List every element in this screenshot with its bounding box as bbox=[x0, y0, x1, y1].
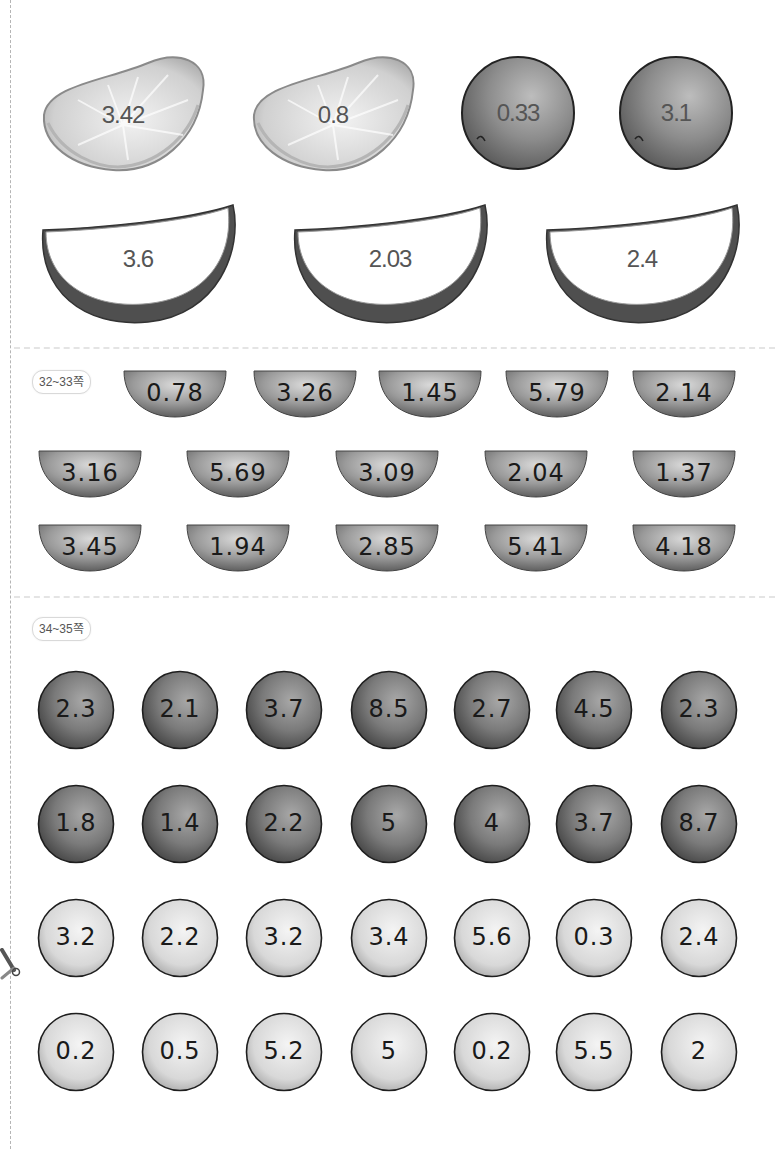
bowl-card[interactable]: 0.78 bbox=[123, 370, 227, 418]
dark-ball-card[interactable]: 4 bbox=[453, 784, 531, 864]
dark-ball-card[interactable]: 8.7 bbox=[660, 784, 738, 864]
watermelon-value: 3.6 bbox=[38, 245, 238, 273]
bowl-card[interactable]: 1.45 bbox=[378, 370, 482, 418]
tangerine-segment-card[interactable]: 3.42 bbox=[38, 45, 208, 175]
bowl-value: 0.78 bbox=[123, 379, 227, 407]
watermelon-value: 2.4 bbox=[542, 245, 742, 273]
bowl-value: 3.09 bbox=[335, 459, 439, 487]
dark-ball-card[interactable]: 2.7 bbox=[453, 670, 531, 750]
bowl-card[interactable]: 3.26 bbox=[253, 370, 357, 418]
light-ball-value: 5.6 bbox=[453, 923, 531, 951]
light-ball-card[interactable]: 2 bbox=[660, 1012, 738, 1092]
dark-ball-value: 2.7 bbox=[453, 695, 531, 723]
bowl-value: 3.45 bbox=[38, 533, 142, 561]
dark-ball-card[interactable]: 2.3 bbox=[37, 670, 115, 750]
light-ball-card[interactable]: 0.2 bbox=[453, 1012, 531, 1092]
bowl-value: 4.18 bbox=[632, 533, 736, 561]
light-ball-card[interactable]: 5.6 bbox=[453, 898, 531, 978]
bowl-value: 5.69 bbox=[186, 459, 290, 487]
section-divider bbox=[14, 347, 775, 349]
dark-ball-value: 1.4 bbox=[141, 809, 219, 837]
light-ball-value: 0.3 bbox=[555, 923, 633, 951]
light-ball-card[interactable]: 3.4 bbox=[350, 898, 428, 978]
dark-ball-card[interactable]: 5 bbox=[350, 784, 428, 864]
dark-ball-value: 2.1 bbox=[141, 695, 219, 723]
tangerine-segment-card[interactable]: 0.8 bbox=[248, 45, 418, 175]
light-ball-card[interactable]: 2.4 bbox=[660, 898, 738, 978]
bowl-card[interactable]: 2.85 bbox=[335, 524, 439, 572]
light-ball-value: 0.2 bbox=[37, 1037, 115, 1065]
light-ball-card[interactable]: 5.5 bbox=[555, 1012, 633, 1092]
dark-ball-card[interactable]: 1.4 bbox=[141, 784, 219, 864]
bowl-card[interactable]: 5.41 bbox=[484, 524, 588, 572]
grape-card[interactable]: 3.1 bbox=[618, 55, 734, 171]
bowl-value: 2.85 bbox=[335, 533, 439, 561]
dark-ball-value: 8.7 bbox=[660, 809, 738, 837]
light-ball-value: 2.2 bbox=[141, 923, 219, 951]
watermelon-slice-card[interactable]: 2.03 bbox=[290, 200, 490, 326]
bowl-card[interactable]: 5.69 bbox=[186, 450, 290, 498]
dark-ball-card[interactable]: 2.3 bbox=[660, 670, 738, 750]
dark-ball-card[interactable]: 1.8 bbox=[37, 784, 115, 864]
dark-ball-value: 3.7 bbox=[555, 809, 633, 837]
light-ball-card[interactable]: 2.2 bbox=[141, 898, 219, 978]
light-ball-card[interactable]: 5 bbox=[350, 1012, 428, 1092]
dark-ball-value: 3.7 bbox=[245, 695, 323, 723]
light-ball-value: 2 bbox=[660, 1037, 738, 1065]
watermelon-slice-card[interactable]: 3.6 bbox=[38, 200, 238, 326]
bowl-card[interactable]: 4.18 bbox=[632, 524, 736, 572]
light-ball-value: 3.4 bbox=[350, 923, 428, 951]
dark-ball-card[interactable]: 4.5 bbox=[555, 670, 633, 750]
light-ball-value: 5.2 bbox=[245, 1037, 323, 1065]
light-ball-card[interactable]: 0.5 bbox=[141, 1012, 219, 1092]
light-ball-card[interactable]: 3.2 bbox=[245, 898, 323, 978]
light-ball-card[interactable]: 0.2 bbox=[37, 1012, 115, 1092]
bowl-value: 1.94 bbox=[186, 533, 290, 561]
bowl-card[interactable]: 3.09 bbox=[335, 450, 439, 498]
dark-ball-value: 4 bbox=[453, 809, 531, 837]
page-tag-34-35: 34~35쪽 bbox=[32, 617, 91, 641]
page-tag-32-33: 32~33쪽 bbox=[32, 370, 91, 394]
light-ball-value: 0.5 bbox=[141, 1037, 219, 1065]
bowl-value: 5.79 bbox=[505, 379, 609, 407]
dark-ball-value: 1.8 bbox=[37, 809, 115, 837]
dark-ball-card[interactable]: 2.1 bbox=[141, 670, 219, 750]
grape-value: 3.1 bbox=[618, 99, 734, 127]
bowl-card[interactable]: 2.14 bbox=[632, 370, 736, 418]
light-ball-card[interactable]: 5.2 bbox=[245, 1012, 323, 1092]
light-ball-value: 3.2 bbox=[37, 923, 115, 951]
bowl-value: 3.16 bbox=[38, 459, 142, 487]
watermelon-value: 2.03 bbox=[290, 245, 490, 273]
bowl-value: 3.26 bbox=[253, 379, 357, 407]
watermelon-slice-card[interactable]: 2.4 bbox=[542, 200, 742, 326]
section-divider bbox=[14, 596, 775, 598]
bowl-card[interactable]: 5.79 bbox=[505, 370, 609, 418]
dark-ball-value: 2.2 bbox=[245, 809, 323, 837]
bowl-card[interactable]: 3.16 bbox=[38, 450, 142, 498]
light-ball-value: 3.2 bbox=[245, 923, 323, 951]
bowl-value: 2.04 bbox=[484, 459, 588, 487]
light-ball-card[interactable]: 0.3 bbox=[555, 898, 633, 978]
grape-card[interactable]: 0.33 bbox=[460, 55, 576, 171]
light-ball-card[interactable]: 3.2 bbox=[37, 898, 115, 978]
bowl-value: 5.41 bbox=[484, 533, 588, 561]
tangerine-value: 3.42 bbox=[38, 101, 208, 129]
dark-ball-card[interactable]: 2.2 bbox=[245, 784, 323, 864]
bowl-card[interactable]: 3.45 bbox=[38, 524, 142, 572]
bowl-card[interactable]: 1.37 bbox=[632, 450, 736, 498]
dark-ball-value: 4.5 bbox=[555, 695, 633, 723]
bowl-card[interactable]: 1.94 bbox=[186, 524, 290, 572]
bowl-value: 1.45 bbox=[378, 379, 482, 407]
dark-ball-card[interactable]: 3.7 bbox=[245, 670, 323, 750]
bowl-value: 2.14 bbox=[632, 379, 736, 407]
dark-ball-value: 2.3 bbox=[37, 695, 115, 723]
bowl-card[interactable]: 2.04 bbox=[484, 450, 588, 498]
tangerine-value: 0.8 bbox=[248, 101, 418, 129]
grape-value: 0.33 bbox=[460, 99, 576, 127]
light-ball-value: 2.4 bbox=[660, 923, 738, 951]
dark-ball-card[interactable]: 8.5 bbox=[350, 670, 428, 750]
dark-ball-value: 5 bbox=[350, 809, 428, 837]
scissors-icon bbox=[0, 948, 26, 984]
bowl-value: 1.37 bbox=[632, 459, 736, 487]
dark-ball-card[interactable]: 3.7 bbox=[555, 784, 633, 864]
